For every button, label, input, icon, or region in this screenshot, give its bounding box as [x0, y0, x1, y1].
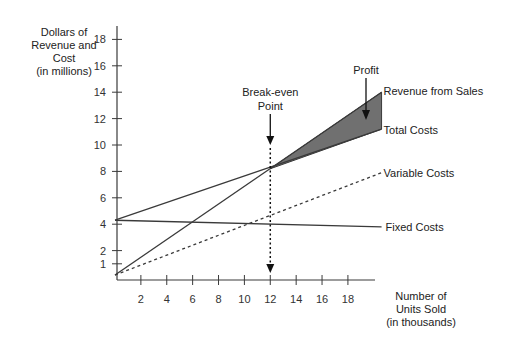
break-even-arrow-icon [266, 136, 274, 145]
series-lines: Revenue from SalesTotal CostsVariable Co… [115, 85, 484, 275]
y-tick-label: 14 [94, 86, 106, 98]
break-even-down-arrow-icon [266, 264, 274, 273]
break-even-label-line-1: Break-even [242, 86, 298, 98]
y-tick-label: 2 [100, 245, 106, 257]
total-costs-line [115, 129, 382, 220]
fixed-costs-line [115, 220, 382, 227]
break-even-label-line-2: Point [258, 100, 283, 112]
x-tick-label: 8 [215, 293, 221, 305]
x-tick-label: 10 [238, 293, 250, 305]
annotations: Break-evenPointProfit [242, 64, 379, 273]
x-tick-label: 6 [190, 293, 196, 305]
y-tick-label: 1 [100, 258, 106, 270]
x-tick-label: 18 [342, 293, 354, 305]
y-tick-label: 12 [94, 113, 106, 125]
x-tick-label: 14 [290, 293, 302, 305]
x-tick-label: 16 [316, 293, 328, 305]
break-even-chart: 12468101214161824681012141618 Revenue fr… [0, 0, 508, 344]
x-tick-label: 2 [138, 293, 144, 305]
variable-costs-label: Variable Costs [384, 167, 455, 179]
revenue-from-sales-line [115, 92, 382, 275]
y-tick-label: 18 [94, 33, 106, 45]
x-tick-label: 12 [264, 293, 276, 305]
y-tick-label: 4 [100, 218, 106, 230]
x-tick-label: 4 [164, 293, 170, 305]
y-tick-label: 8 [100, 165, 106, 177]
y-tick-label: 6 [100, 192, 106, 204]
fixed-costs-label: Fixed Costs [386, 221, 445, 233]
y-tick-label: 10 [94, 139, 106, 151]
revenue-from-sales-label: Revenue from Sales [384, 85, 484, 97]
y-tick-label: 16 [94, 60, 106, 72]
profit-label: Profit [353, 64, 379, 76]
axes: 12468101214161824681012141618 [94, 26, 375, 305]
total-costs-label: Total Costs [384, 124, 439, 136]
